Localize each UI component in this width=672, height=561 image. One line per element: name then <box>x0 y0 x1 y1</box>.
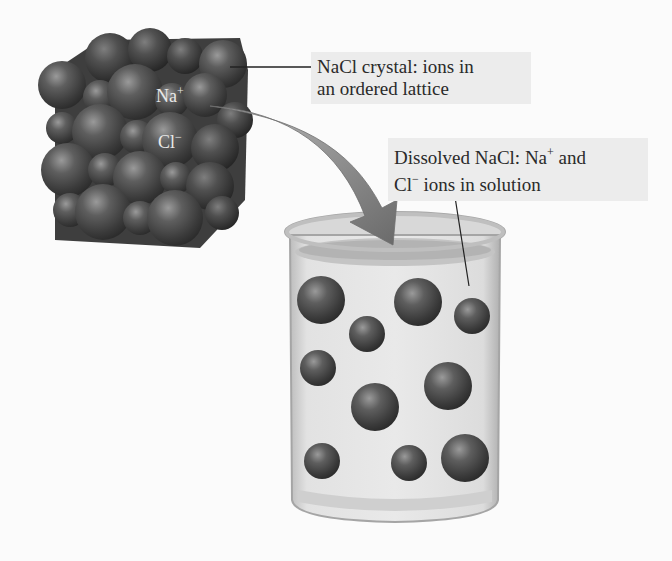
dissolved-line2-text: Cl <box>394 175 412 196</box>
nacl-crystal <box>38 28 253 248</box>
crystal-label: NaCl crystal: ions in an ordered lattice <box>311 52 531 104</box>
sodium-charge: + <box>177 84 184 98</box>
crystal-label-line1: NaCl crystal: ions in <box>317 56 523 78</box>
dissolved-label: Dissolved NaCl: Na+ and Cl− ions in solu… <box>388 138 648 201</box>
chloride-charge: − <box>175 130 182 144</box>
dissolved-line1-suffix: and <box>554 147 586 168</box>
chloride-ion-tag: Cl− <box>158 130 182 153</box>
sodium-symbol: Na <box>156 86 177 106</box>
chloride-symbol: Cl <box>158 132 175 152</box>
chloride-charge-sup: − <box>412 172 419 186</box>
dissolved-label-line2: Cl− ions in solution <box>394 169 640 196</box>
crystal-label-line2: an ordered lattice <box>317 78 523 100</box>
sodium-charge-sup: + <box>547 145 554 159</box>
dissolved-line2-suffix: ions in solution <box>419 175 541 196</box>
dissolved-line1-text: Dissolved NaCl: Na <box>394 147 547 168</box>
dissolved-label-line1: Dissolved NaCl: Na+ and <box>394 142 640 169</box>
sodium-ion-tag: Na+ <box>156 84 184 107</box>
